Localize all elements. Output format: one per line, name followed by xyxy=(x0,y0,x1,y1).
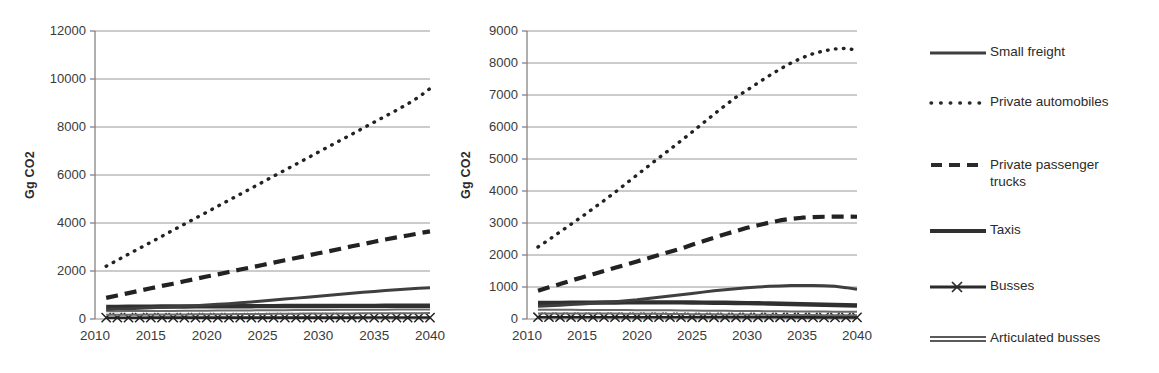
dotted-line-icon xyxy=(928,95,990,111)
legend-item-busses[interactable]: Busses xyxy=(928,278,1034,295)
y-tick-label: 5000 xyxy=(440,152,518,165)
legend-label-articulated-busses: Articulated busses xyxy=(990,330,1100,346)
y-tick-label: 6000 xyxy=(0,168,86,181)
y-tick-label: 0 xyxy=(0,312,86,325)
y-tick-label: 6000 xyxy=(440,120,518,133)
y-tick-label: 9000 xyxy=(440,24,518,37)
y-tick-label: 8000 xyxy=(0,120,86,133)
legend-item-private-automobiles[interactable]: Private automobiles xyxy=(928,94,1109,111)
legend-label-small-freight: Small freight xyxy=(990,44,1065,60)
y-tick-label: 0 xyxy=(440,312,518,325)
y-tick-label: 2000 xyxy=(0,264,86,277)
chart-legend: Small freight Private automobiles Privat… xyxy=(910,0,1159,373)
solid-thick-line-icon xyxy=(928,223,990,239)
y-tick-label: 4000 xyxy=(440,184,518,197)
y-tick-label: 1000 xyxy=(440,280,518,293)
x-tick-label: 2040 xyxy=(822,329,892,343)
y-tick-label: 4000 xyxy=(0,216,86,229)
chart-panel-right: Gg CO2 010002000300040005000600070008000… xyxy=(440,0,910,373)
y-tick-label: 10000 xyxy=(0,72,86,85)
y-tick-label: 3000 xyxy=(440,216,518,229)
y-tick-label: 12000 xyxy=(0,24,86,37)
chart-panel-left: Gg CO2 020004000600080001000012000201020… xyxy=(0,0,440,373)
x-marker-line-icon xyxy=(928,279,990,295)
legend-label-busses: Busses xyxy=(990,278,1034,294)
legend-item-articulated-busses[interactable]: Articulated busses xyxy=(928,330,1100,347)
solid-thin-line-icon xyxy=(928,45,990,61)
legend-label-taxis: Taxis xyxy=(990,222,1021,238)
y-tick-label: 8000 xyxy=(440,56,518,69)
legend-item-small-freight[interactable]: Small freight xyxy=(928,44,1065,61)
legend-label-private-automobiles: Private automobiles xyxy=(990,94,1109,110)
figure-root: Gg CO2 020004000600080001000012000201020… xyxy=(0,0,1159,373)
solid-double-line-icon xyxy=(928,331,990,347)
legend-label-private-passenger-trucks: Private passenger trucks xyxy=(990,156,1099,190)
legend-item-taxis[interactable]: Taxis xyxy=(928,222,1021,239)
legend-item-private-passenger-trucks[interactable]: Private passenger trucks xyxy=(928,156,1099,190)
y-tick-label: 2000 xyxy=(440,248,518,261)
y-tick-label: 7000 xyxy=(440,88,518,101)
dashed-line-icon xyxy=(928,157,990,173)
